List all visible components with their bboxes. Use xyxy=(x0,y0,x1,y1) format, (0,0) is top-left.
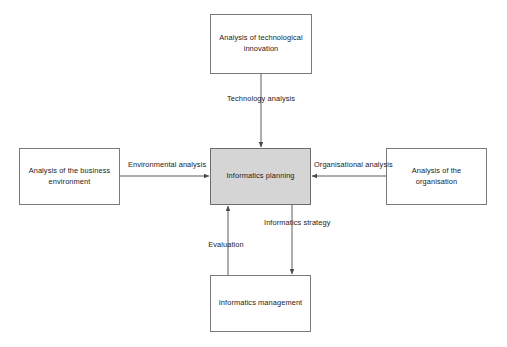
edge-label-evaluation: Evaluation xyxy=(196,240,256,251)
edge-label-text: Organisational analysis xyxy=(314,160,393,169)
edge-label-environmental-analysis: Environmental analysis xyxy=(128,160,204,171)
node-informatics-management[interactable]: Informatics management xyxy=(210,275,311,332)
edge-label-technology-analysis: Technology analysis xyxy=(226,94,296,105)
node-organisation[interactable]: Analysis of the organisation xyxy=(386,148,487,205)
edge-label-text: Evaluation xyxy=(208,240,244,249)
edge-label-text: Informatics strategy xyxy=(264,218,330,227)
node-informatics-planning[interactable]: Informatics planning xyxy=(210,148,311,205)
edge-label-informatics-strategy: Informatics strategy xyxy=(264,218,322,229)
edge-label-text: Environmental analysis xyxy=(128,160,206,169)
node-label: Analysis of the business environment xyxy=(25,166,114,187)
edge-label-text: Technology analysis xyxy=(227,94,295,103)
node-label: Informatics planning xyxy=(226,171,294,182)
node-technological-innovation[interactable]: Analysis of technological innovation xyxy=(210,14,312,74)
node-label: Analysis of technological innovation xyxy=(216,33,306,54)
diagram-canvas: Analysis of technological innovation Ana… xyxy=(0,0,507,347)
node-business-environment[interactable]: Analysis of the business environment xyxy=(19,148,120,205)
edge-label-organisational-analysis: Organisational analysis xyxy=(314,160,386,171)
node-label: Analysis of the organisation xyxy=(392,166,481,187)
node-label: Informatics management xyxy=(219,298,303,309)
